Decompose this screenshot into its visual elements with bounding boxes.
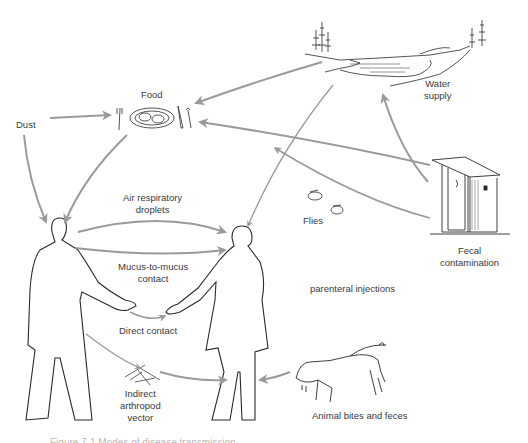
food-plate-icon [117, 106, 191, 130]
label-parenteral-injections: parenteral injections [310, 283, 395, 295]
water-supply-icon [305, 20, 486, 86]
label-mucus-line2: contact [118, 273, 188, 285]
diagram-canvas [0, 0, 528, 443]
arrow-food-man [65, 135, 127, 222]
label-arthropod-line2: arthropod [120, 400, 161, 412]
arrow-water-food [196, 62, 322, 103]
label-air-respiratory: Air respiratory droplets [123, 192, 182, 216]
arrow-dust-man [24, 135, 46, 222]
label-fecal-line2: contamination [440, 257, 499, 269]
label-air-line1: Air respiratory [123, 192, 182, 204]
label-water-supply: Water supply [424, 78, 451, 102]
figure-caption: Figure 7-1 Modes of disease transmission… [50, 437, 238, 443]
arrow-direct-contact [130, 312, 165, 318]
label-animal-bites: Animal bites and feces [312, 410, 408, 422]
arrow-fecal-flies [275, 148, 430, 218]
label-direct-contact: Direct contact [119, 325, 177, 337]
arrow-mucus-contact [75, 248, 225, 254]
flies-icon [308, 190, 343, 214]
label-mucus-line1: Mucus-to-mucus [118, 261, 188, 273]
label-fecal-contamination: Fecal contamination [440, 245, 499, 269]
label-dust: Dust [16, 119, 36, 131]
label-mucus-contact: Mucus-to-mucus contact [118, 261, 188, 285]
label-food: Food [141, 89, 163, 101]
label-air-line2: droplets [123, 204, 182, 216]
woman-figure-icon [166, 226, 268, 420]
arrow-dust-food [50, 115, 110, 118]
arrow-to-vector [86, 334, 140, 368]
arrow-air-droplets [78, 221, 225, 232]
arrow-vector-woman [160, 372, 226, 380]
outhouse-icon [430, 157, 510, 234]
label-arthropod-vector: Indirect arthropod vector [120, 388, 161, 424]
mosquito-icon [125, 365, 160, 385]
label-water-line1: Water [424, 78, 451, 90]
arrow-water-woman [248, 85, 333, 226]
label-arthropod-line1: Indirect [120, 388, 161, 400]
label-water-line2: supply [424, 90, 451, 102]
label-fecal-line1: Fecal [440, 245, 499, 257]
label-arthropod-line3: vector [120, 412, 161, 424]
dog-icon [296, 343, 386, 402]
arrow-animal-woman [260, 372, 290, 380]
arrow-fecal-water [383, 95, 428, 182]
label-flies: Flies [303, 215, 323, 227]
